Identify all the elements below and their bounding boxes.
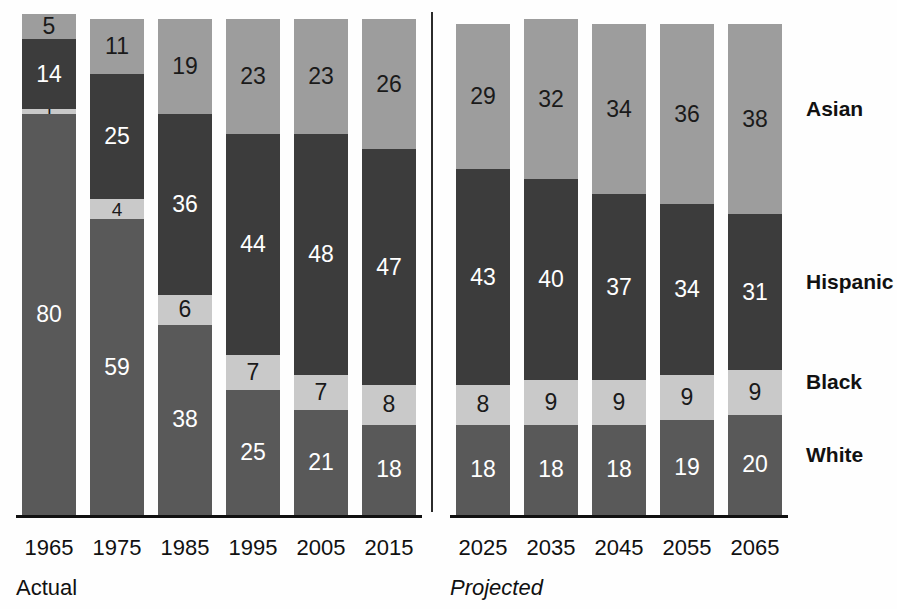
segment-asian-2065[interactable]: 38 [728,24,782,214]
segment-value-label: 38 [742,108,768,131]
segment-asian-1985[interactable]: 19 [158,19,212,114]
segment-value-label: 29 [470,85,496,108]
x-axis-line-projected [450,515,788,518]
segment-white-2015[interactable]: 18 [362,425,416,515]
segment-asian-2055[interactable]: 36 [660,24,714,204]
segment-value-label: 32 [538,88,564,111]
bar-2055[interactable]: 3634919 [660,24,714,515]
segment-black-2005[interactable]: 7 [294,375,348,410]
x-tick-2045: 2045 [584,535,654,561]
segment-white-1985[interactable]: 38 [158,325,212,515]
segment-value-label: 21 [308,451,334,474]
bar-2005[interactable]: 2348721 [294,19,348,515]
segment-hispanic-2025[interactable]: 43 [456,169,510,384]
segment-white-2005[interactable]: 21 [294,410,348,515]
segment-value-label: 37 [606,276,632,299]
segment-value-label: 36 [172,193,198,216]
segment-value-label: 19 [172,55,198,78]
bar-1975[interactable]: 1125459 [90,19,144,515]
segment-hispanic-2065[interactable]: 31 [728,214,782,369]
segment-hispanic-1965[interactable]: 14 [22,39,76,109]
segment-value-label: 34 [606,98,632,121]
segment-asian-1965[interactable]: 5 [22,14,76,39]
x-tick-2005: 2005 [286,535,356,561]
x-tick-1995: 1995 [218,535,288,561]
segment-hispanic-2015[interactable]: 47 [362,149,416,384]
segment-white-2025[interactable]: 18 [456,425,510,515]
segment-black-1995[interactable]: 7 [226,355,280,390]
segment-value-label: 23 [308,65,334,88]
segment-hispanic-1985[interactable]: 36 [158,114,212,294]
segment-black-2025[interactable]: 8 [456,385,510,425]
bar-2065[interactable]: 3831920 [728,24,782,515]
segment-value-label: 4 [112,200,123,219]
segment-value-label: 8 [383,393,396,416]
segment-value-label: 18 [470,458,496,481]
stacked-bar-chart: 5141801965112545919751936638198523447251… [0,0,897,609]
segment-asian-2005[interactable]: 23 [294,19,348,134]
bar-2015[interactable]: 2647818 [362,19,416,515]
segment-asian-2035[interactable]: 32 [524,19,578,179]
segment-white-2035[interactable]: 18 [524,425,578,515]
segment-asian-2025[interactable]: 29 [456,24,510,169]
bar-1985[interactable]: 1936638 [158,19,212,515]
bar-1995[interactable]: 2344725 [226,19,280,515]
segment-white-1975[interactable]: 59 [90,219,144,515]
plot-area: 5141801965112545919751936638198523447251… [0,0,897,609]
segment-hispanic-2035[interactable]: 40 [524,179,578,379]
segment-value-label: 6 [179,298,192,321]
segment-black-1975[interactable]: 4 [90,199,144,219]
segment-value-label: 36 [674,103,700,126]
segment-black-2015[interactable]: 8 [362,385,416,425]
segment-white-1965[interactable]: 80 [22,114,76,515]
x-tick-1965: 1965 [14,535,84,561]
segment-white-2045[interactable]: 18 [592,425,646,515]
segment-hispanic-2045[interactable]: 37 [592,194,646,379]
bar-2045[interactable]: 3437918 [592,24,646,515]
segment-asian-1995[interactable]: 23 [226,19,280,134]
segment-value-label: 34 [674,278,700,301]
segment-value-label: 8 [477,393,490,416]
x-tick-2055: 2055 [652,535,722,561]
segment-value-label: 38 [172,408,198,431]
legend-item-asian[interactable]: Asian [806,97,863,121]
segment-hispanic-2005[interactable]: 48 [294,134,348,374]
segment-white-2065[interactable]: 20 [728,415,782,515]
segment-black-2055[interactable]: 9 [660,375,714,420]
legend-item-white[interactable]: White [806,443,863,467]
x-tick-2035: 2035 [516,535,586,561]
segment-value-label: 18 [538,458,564,481]
segment-black-2035[interactable]: 9 [524,380,578,425]
segment-hispanic-2055[interactable]: 34 [660,204,714,374]
segment-asian-2045[interactable]: 34 [592,24,646,194]
segment-white-1995[interactable]: 25 [226,390,280,515]
segment-value-label: 31 [742,281,768,304]
segment-value-label: 18 [376,458,402,481]
legend-item-black[interactable]: Black [806,370,862,394]
bar-2025[interactable]: 2943818 [456,24,510,515]
segment-value-label: 7 [247,361,260,384]
segment-asian-1975[interactable]: 11 [90,19,144,74]
segment-hispanic-1975[interactable]: 25 [90,74,144,199]
segment-value-label: 5 [43,15,56,38]
segment-value-label: 25 [104,125,130,148]
segment-value-label: 19 [674,456,700,479]
segment-value-label: 9 [681,386,694,409]
segment-black-1985[interactable]: 6 [158,295,212,325]
segment-value-label: 40 [538,268,564,291]
segment-value-label: 9 [613,391,626,414]
x-axis-line-actual [16,515,422,518]
segment-value-label: 43 [470,266,496,289]
segment-white-2055[interactable]: 19 [660,420,714,515]
segment-value-label: 59 [104,356,130,379]
legend-item-hispanic[interactable]: Hispanic [806,270,894,294]
segment-black-2045[interactable]: 9 [592,380,646,425]
segment-hispanic-1995[interactable]: 44 [226,134,280,354]
actual-projected-divider [431,12,433,512]
segment-asian-2015[interactable]: 26 [362,19,416,149]
segment-value-label: 44 [240,233,266,256]
bar-1965[interactable]: 514180 [22,14,76,515]
segment-value-label: 48 [308,243,334,266]
segment-black-2065[interactable]: 9 [728,370,782,415]
bar-2035[interactable]: 3240918 [524,19,578,515]
